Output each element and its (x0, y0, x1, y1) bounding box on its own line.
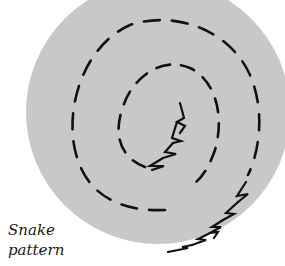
fabric-hoop (26, 0, 285, 244)
caption-line-1: Snake (8, 220, 64, 240)
caption-line-2: pattern (8, 240, 64, 260)
diagram-caption: Snake pattern (8, 220, 64, 260)
